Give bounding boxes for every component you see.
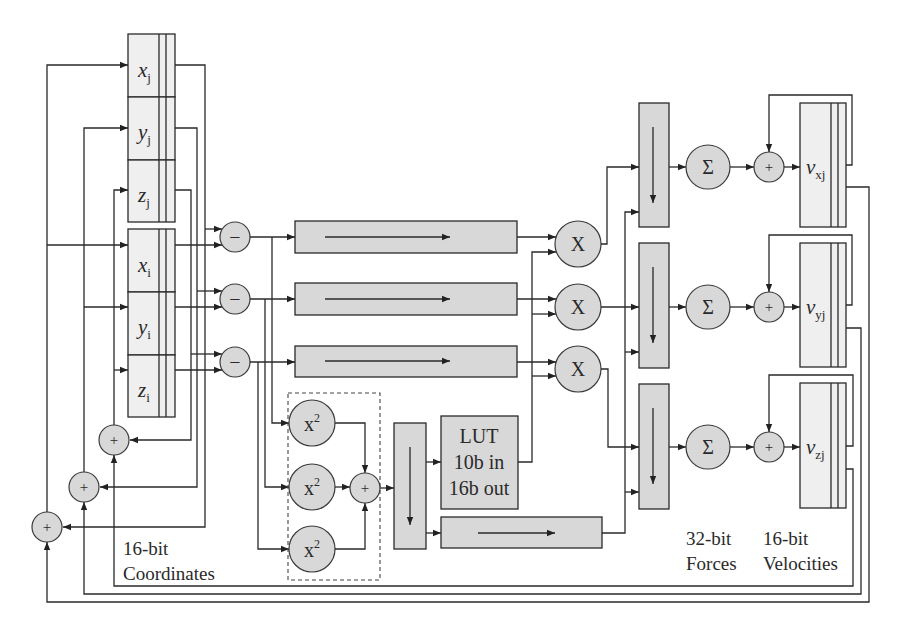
lut-output-wires bbox=[518, 252, 556, 462]
force-column-y bbox=[639, 243, 669, 368]
force-accumulator-x: Σ bbox=[686, 145, 730, 189]
coordinates-caption: 16-bit Coordinates bbox=[123, 538, 215, 584]
force-column-x bbox=[639, 103, 669, 227]
svg-text:+: + bbox=[80, 479, 88, 495]
svg-text:+: + bbox=[43, 519, 51, 535]
svg-text:+: + bbox=[765, 299, 773, 315]
square-x: x2 bbox=[289, 400, 335, 446]
svg-text:16-bit: 16-bit bbox=[763, 528, 809, 549]
square-z: x2 bbox=[289, 526, 335, 572]
velocity-adder-y: + bbox=[754, 292, 784, 322]
delay-pipeline-x bbox=[295, 221, 517, 253]
r2-output-wires bbox=[426, 462, 441, 533]
svg-text:Forces: Forces bbox=[686, 553, 737, 574]
lut-title: LUT bbox=[460, 425, 499, 447]
pipeline-output-wires bbox=[517, 237, 556, 362]
force-accumulator-z: Σ bbox=[686, 425, 730, 469]
lut-output-width: 16b out bbox=[449, 477, 510, 499]
multiplier-z: X bbox=[555, 346, 601, 392]
svg-text:X: X bbox=[571, 233, 586, 255]
velocity-register-x: vxj bbox=[800, 103, 846, 227]
coordinate-adder-x: + bbox=[32, 512, 62, 542]
delay-pipeline-z bbox=[295, 346, 517, 377]
force-column-z bbox=[639, 384, 669, 509]
velocity-register-y: vyj bbox=[800, 243, 846, 367]
distance-adder: + bbox=[350, 473, 380, 503]
svg-text:Coordinates: Coordinates bbox=[123, 563, 215, 584]
r2-delay-column bbox=[394, 423, 426, 549]
svg-text:+: + bbox=[765, 159, 773, 175]
multiplier-x: X bbox=[555, 221, 601, 267]
square-y: x2 bbox=[289, 464, 335, 510]
svg-text:16-bit: 16-bit bbox=[123, 538, 169, 559]
delay-pipeline-r2 bbox=[441, 517, 602, 548]
subtractor-y: − bbox=[220, 284, 250, 314]
svg-text:−: − bbox=[229, 351, 240, 373]
register-zi bbox=[128, 355, 175, 417]
velocity-register-z: vzj bbox=[800, 383, 846, 508]
lut-input-width: 10b in bbox=[454, 451, 505, 473]
delay-pipeline-y bbox=[295, 283, 517, 315]
subtractor-z: − bbox=[220, 347, 250, 377]
svg-text:+: + bbox=[361, 480, 369, 496]
svg-text:Σ: Σ bbox=[702, 296, 714, 318]
velocities-caption: 16-bit Velocities bbox=[763, 528, 838, 574]
register-zj bbox=[128, 160, 175, 222]
multiplier-output-wires bbox=[601, 167, 639, 447]
forces-caption: 32-bit Forces bbox=[686, 528, 737, 574]
force-accumulator-y: Σ bbox=[686, 285, 730, 329]
svg-text:Σ: Σ bbox=[702, 436, 714, 458]
svg-text:−: − bbox=[229, 288, 240, 310]
svg-text:X: X bbox=[571, 296, 586, 318]
subtractor-x: − bbox=[220, 222, 250, 252]
svg-text:Σ: Σ bbox=[702, 156, 714, 178]
coordinate-adder-y: + bbox=[69, 472, 99, 502]
lookup-table-block: LUT 10b in 16b out bbox=[441, 416, 518, 509]
register-yj bbox=[128, 97, 175, 160]
velocity-adder-z: + bbox=[754, 432, 784, 462]
svg-text:X: X bbox=[571, 358, 586, 380]
register-yi bbox=[128, 292, 175, 355]
velocity-adder-x: + bbox=[754, 152, 784, 182]
svg-text:32-bit: 32-bit bbox=[686, 528, 732, 549]
svg-text:+: + bbox=[110, 432, 118, 448]
svg-text:−: − bbox=[229, 226, 240, 248]
register-xj bbox=[128, 34, 175, 97]
multiplier-y: X bbox=[555, 284, 601, 330]
register-xi bbox=[128, 229, 175, 292]
svg-text:+: + bbox=[765, 439, 773, 455]
md-force-pipeline-diagram: xj yj zj xi yi zi + + + − bbox=[0, 0, 899, 637]
svg-text:Velocities: Velocities bbox=[763, 553, 838, 574]
coordinate-register-bank: xj yj zj xi yi zi bbox=[128, 34, 175, 417]
coordinate-adder-z: + bbox=[99, 425, 129, 455]
